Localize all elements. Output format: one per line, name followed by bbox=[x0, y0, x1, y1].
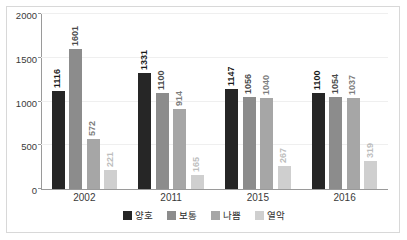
y-axis-tick-label: 0 bbox=[3, 185, 37, 196]
legend-label: 열악 bbox=[267, 208, 285, 222]
bar[interactable] bbox=[260, 98, 273, 189]
bar-slot: 572 bbox=[87, 14, 100, 189]
bar-slot: 221 bbox=[104, 14, 117, 189]
bar-value-label: 1100 bbox=[313, 70, 322, 90]
legend-label: 보통 bbox=[179, 208, 197, 222]
bar-value-label: 165 bbox=[192, 157, 201, 172]
legend-item[interactable]: 나쁨 bbox=[211, 208, 241, 222]
y-axis-tick-label: 2000 bbox=[3, 10, 37, 21]
bar[interactable] bbox=[329, 97, 342, 189]
legend-swatch-icon bbox=[255, 211, 264, 220]
bar[interactable] bbox=[87, 139, 100, 189]
bar-slot: 1331 bbox=[138, 14, 151, 189]
bar[interactable] bbox=[52, 91, 65, 189]
y-axis: 0500100015002000 bbox=[0, 14, 37, 190]
legend-swatch-icon bbox=[167, 211, 176, 220]
bar[interactable] bbox=[173, 109, 186, 189]
legend-swatch-icon bbox=[211, 211, 220, 220]
x-axis-tick-label: 2016 bbox=[301, 192, 388, 203]
bar-slot: 1037 bbox=[347, 14, 360, 189]
bar[interactable] bbox=[191, 175, 204, 189]
bar-group: 11161601572221 bbox=[41, 14, 128, 189]
bar-value-label: 267 bbox=[279, 148, 288, 163]
bar[interactable] bbox=[364, 161, 377, 189]
bar[interactable] bbox=[243, 97, 256, 189]
bar-value-label: 914 bbox=[175, 91, 184, 106]
bar-slot: 165 bbox=[191, 14, 204, 189]
bar-value-label: 1116 bbox=[53, 69, 62, 88]
bar[interactable] bbox=[69, 49, 82, 189]
bar[interactable] bbox=[347, 98, 360, 189]
bar-value-label: 1100 bbox=[157, 70, 166, 90]
bar-value-label: 572 bbox=[88, 121, 97, 136]
bar-value-label: 319 bbox=[366, 143, 375, 158]
bar-value-label: 1037 bbox=[348, 75, 357, 95]
y-axis-tick-label: 500 bbox=[3, 141, 37, 152]
bar[interactable] bbox=[138, 73, 151, 189]
x-axis-line bbox=[41, 189, 388, 190]
y-axis-tick-label: 1500 bbox=[3, 53, 37, 64]
bar-slot: 1100 bbox=[312, 14, 325, 189]
bar[interactable] bbox=[104, 170, 117, 189]
bar-slot: 319 bbox=[364, 14, 377, 189]
bar[interactable] bbox=[278, 166, 291, 189]
bar-slot: 1147 bbox=[225, 14, 238, 189]
bar-value-label: 1054 bbox=[331, 74, 340, 94]
legend-label: 양호 bbox=[135, 208, 153, 222]
bar-slot: 1056 bbox=[243, 14, 256, 189]
bar-group: 13311100914165 bbox=[128, 14, 215, 189]
bar-slot: 1100 bbox=[156, 14, 169, 189]
bar-group: 114710561040267 bbox=[215, 14, 302, 189]
legend-item[interactable]: 열악 bbox=[255, 208, 285, 222]
bar-value-label: 1040 bbox=[262, 75, 271, 95]
bar-group: 110010541037319 bbox=[301, 14, 388, 189]
x-axis-tick-label: 2002 bbox=[41, 192, 128, 203]
chart-legend: 양호보통나쁨열악 bbox=[0, 208, 407, 222]
legend-item[interactable]: 보통 bbox=[167, 208, 197, 222]
bar-slot: 1040 bbox=[260, 14, 273, 189]
x-axis: 2002201120152016 bbox=[41, 192, 388, 206]
bar-chart: 0500100015002000 11161601572221133111009… bbox=[0, 0, 407, 240]
bar-value-label: 1601 bbox=[71, 26, 80, 46]
bar[interactable] bbox=[225, 89, 238, 189]
x-axis-tick-label: 2011 bbox=[128, 192, 215, 203]
legend-label: 나쁨 bbox=[223, 208, 241, 222]
bar-slot: 1116 bbox=[52, 14, 65, 189]
legend-item[interactable]: 양호 bbox=[123, 208, 153, 222]
bar-value-label: 221 bbox=[106, 152, 115, 167]
bar-value-label: 1331 bbox=[140, 50, 149, 70]
bar-slot: 1601 bbox=[69, 14, 82, 189]
plot-area: 1116160157222113311100914165114710561040… bbox=[41, 14, 388, 190]
bar-slot: 1054 bbox=[329, 14, 342, 189]
bar[interactable] bbox=[156, 93, 169, 189]
bar-value-label: 1147 bbox=[227, 66, 236, 86]
x-axis-tick-label: 2015 bbox=[215, 192, 302, 203]
bar-value-label: 1056 bbox=[244, 74, 253, 94]
legend-swatch-icon bbox=[123, 211, 132, 220]
bar-slot: 914 bbox=[173, 14, 186, 189]
bar-slot: 267 bbox=[278, 14, 291, 189]
y-axis-tick-label: 1000 bbox=[3, 97, 37, 108]
bar[interactable] bbox=[312, 93, 325, 189]
